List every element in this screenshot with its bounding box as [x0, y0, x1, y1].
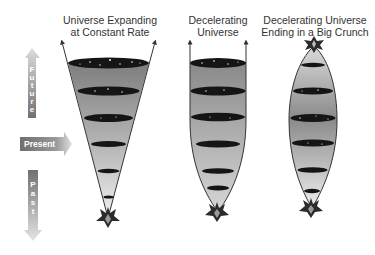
constant-expansion-cone: [62, 42, 155, 228]
decelerating-cone: [190, 42, 246, 222]
svg-text:e: e: [30, 105, 35, 114]
present-arrow: Present: [20, 132, 72, 156]
big-crunch-spindle: [289, 36, 337, 218]
big-bang-star-icon: [205, 202, 229, 222]
present-label: Present: [24, 139, 55, 149]
big-bang-star-icon: [96, 207, 120, 228]
svg-text:t: t: [32, 207, 35, 216]
past-arrow: P a s t: [24, 170, 42, 241]
svg-text:a: a: [31, 189, 36, 198]
universe-diagram: F u t u r e Present P a s t: [0, 0, 375, 255]
big-bang-star-icon: [299, 198, 323, 218]
big-crunch-star-icon: [304, 36, 324, 53]
future-label: F u t u r e: [30, 65, 35, 114]
future-arrow: F u t u r e: [25, 48, 40, 118]
svg-text:s: s: [31, 198, 36, 207]
svg-text:P: P: [30, 180, 36, 189]
